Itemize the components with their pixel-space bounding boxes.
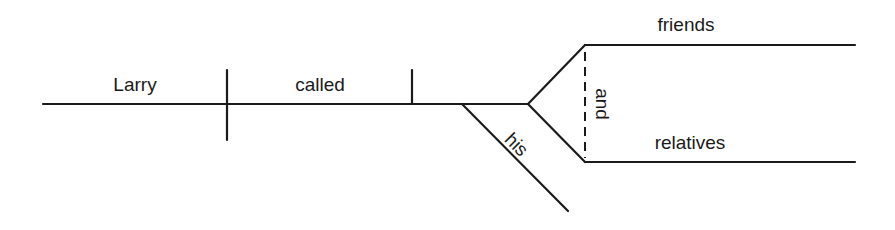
modifier-word: his — [501, 128, 533, 160]
conjunction-word: and — [592, 88, 613, 120]
fork-upper — [528, 45, 585, 104]
fork-lower — [528, 104, 585, 162]
verb-word: called — [295, 74, 345, 95]
subject-word: Larry — [113, 74, 157, 95]
object-word-1: friends — [657, 14, 714, 35]
object-word-2: relatives — [655, 132, 726, 153]
sentence-diagram: Larry called his and friends relatives — [0, 0, 895, 230]
